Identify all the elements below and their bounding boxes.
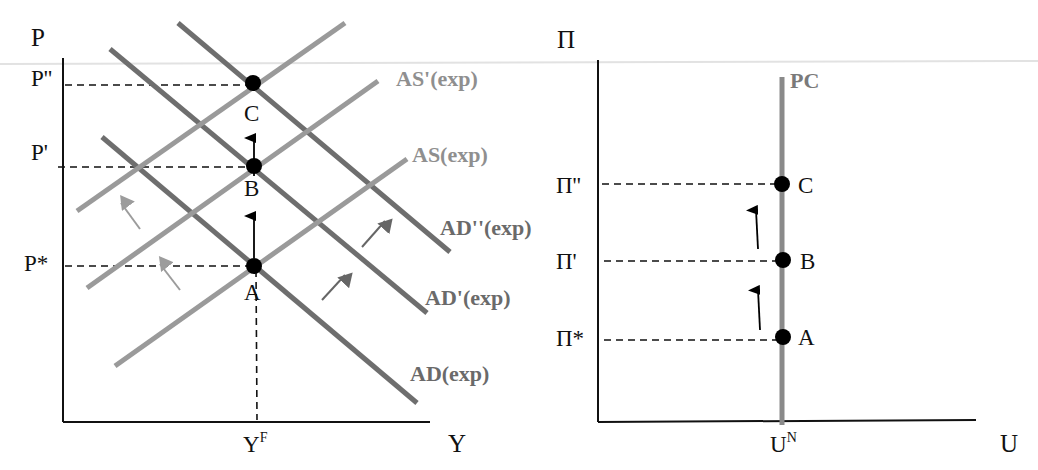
as-shift-arrows xyxy=(121,203,180,290)
label-point-b-right: B xyxy=(800,249,815,274)
point-a-right xyxy=(775,329,791,345)
x-tick-base: Y xyxy=(243,432,260,457)
right-x-axis xyxy=(598,420,976,422)
y-tick-pi-prime: Π' xyxy=(556,249,577,274)
diagram-stage: C B A P Y P'' P' P* YF AS'(exp) AS(exp) … xyxy=(0,0,1038,470)
label-point-a-right: A xyxy=(798,325,815,350)
x-tick-sup: N xyxy=(787,430,797,445)
label-point-a-left: A xyxy=(244,280,261,305)
left-x-axis-label: Y xyxy=(448,430,466,457)
y-tick-p-prime: P' xyxy=(31,140,48,165)
x-tick-base: U xyxy=(770,432,787,457)
x-tick-u-natural: UN xyxy=(770,430,797,457)
label-pc: PC xyxy=(790,68,819,93)
y-tick-p-double-prime: P'' xyxy=(31,66,52,91)
label-ad: AD(exp) xyxy=(410,361,489,386)
label-ad-prime: AD'(exp) xyxy=(425,285,511,310)
as-curve xyxy=(87,81,378,288)
left-panel-ad-as: C B A P Y P'' P' P* YF AS'(exp) AS(exp) … xyxy=(24,23,532,457)
y-tick-p-star: P* xyxy=(24,251,48,276)
left-dashed-guides xyxy=(58,85,257,420)
right-x-axis-label: U xyxy=(1000,430,1018,457)
point-c-left xyxy=(245,75,261,91)
right-dashed-guides xyxy=(602,184,776,340)
point-a-left xyxy=(246,258,262,274)
label-as-prime: AS'(exp) xyxy=(396,66,478,91)
x-tick-y-full-employment: YF xyxy=(243,430,268,457)
label-ad-double-prime: AD''(exp) xyxy=(440,215,532,240)
right-panel-phillips-curve: C B A Π U Π'' Π' Π* UN PC xyxy=(556,26,1018,457)
point-b-left xyxy=(246,158,262,174)
left-y-axis-label: P xyxy=(31,24,45,51)
right-y-axis-label: Π xyxy=(557,26,575,53)
scan-artifact-line xyxy=(0,61,1038,64)
label-point-b-left: B xyxy=(244,176,259,201)
label-as: AS(exp) xyxy=(412,142,488,167)
right-movement-arrows xyxy=(756,210,760,330)
label-point-c-left: C xyxy=(244,101,259,126)
y-tick-pi-star: Π* xyxy=(556,326,584,351)
point-b-right xyxy=(775,252,791,268)
y-tick-pi-double-prime: Π'' xyxy=(556,173,581,198)
point-c-right xyxy=(774,176,790,192)
label-point-c-right: C xyxy=(798,173,813,198)
x-tick-sup: F xyxy=(260,430,268,445)
